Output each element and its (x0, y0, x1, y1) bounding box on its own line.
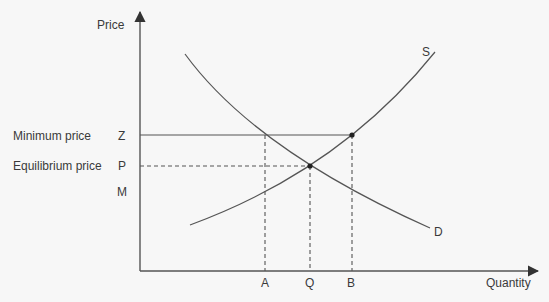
demand-curve-label: D (434, 226, 443, 238)
demand-curve (185, 54, 430, 228)
minimum-price-label: Minimum price (13, 130, 91, 142)
diagram-canvas (0, 0, 549, 302)
minimum-price-supply-point (349, 132, 354, 137)
quantity-level-b: B (347, 277, 355, 289)
quantity-level-a: A (261, 277, 269, 289)
quantity-level-q: Q (305, 277, 314, 289)
price-level-p: P (118, 160, 126, 172)
supply-curve (190, 52, 435, 225)
price-level-z: Z (118, 130, 125, 142)
equilibrium-point (307, 163, 312, 168)
x-axis-label: Quantity (486, 277, 531, 289)
supply-curve-label: S (422, 46, 430, 58)
equilibrium-price-label: Equilibrium price (13, 160, 102, 172)
price-level-m: M (117, 186, 127, 198)
y-axis-label: Price (97, 19, 124, 31)
